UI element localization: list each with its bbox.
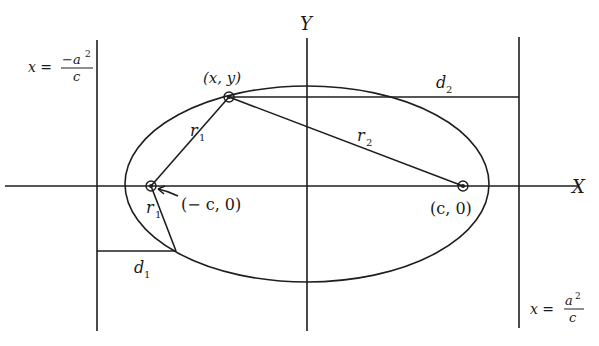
left-focus-label: (− c, 0) <box>181 195 241 214</box>
svg-text:d: d <box>436 73 446 92</box>
r2-label: r 2 <box>357 126 372 148</box>
d2-label: d 2 <box>436 73 452 95</box>
r1-upper-segment <box>151 97 229 186</box>
ellipse-diagram: X Y (x, y) (− c, 0) (c, 0) r 1 r 1 r 2 d… <box>0 0 599 346</box>
point-dot <box>227 95 231 99</box>
svg-text:2: 2 <box>366 137 372 148</box>
y-axis-label: Y <box>300 13 314 34</box>
svg-text:r: r <box>190 121 199 140</box>
svg-text:r: r <box>357 126 366 145</box>
svg-text:c: c <box>73 69 81 84</box>
svg-text:2: 2 <box>575 291 581 301</box>
svg-text:2: 2 <box>446 84 452 95</box>
svg-text:2: 2 <box>85 49 91 59</box>
x-axis-label: X <box>570 176 586 197</box>
svg-text:a: a <box>565 293 573 308</box>
svg-text:c: c <box>569 310 577 325</box>
left-focus-dot <box>149 184 153 188</box>
left-directrix-equation: x = −a 2 c <box>28 49 93 84</box>
right-focus-dot <box>461 184 465 188</box>
svg-text:r: r <box>146 198 155 217</box>
point-label: (x, y) <box>203 69 241 87</box>
svg-text:x =: x = <box>530 301 554 317</box>
svg-text:1: 1 <box>144 269 150 280</box>
svg-text:1: 1 <box>155 209 161 220</box>
right-directrix-equation: x = a 2 c <box>530 291 584 325</box>
svg-text:x =: x = <box>28 59 52 75</box>
svg-text:1: 1 <box>199 132 205 143</box>
right-focus-label: (c, 0) <box>430 199 472 218</box>
svg-text:−a: −a <box>62 52 81 67</box>
svg-text:d: d <box>134 258 144 277</box>
r1-lower-label: r 1 <box>146 198 161 220</box>
d1-label: d 1 <box>134 258 150 280</box>
